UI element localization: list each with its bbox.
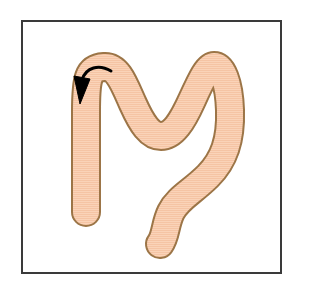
figure-container: Anatomical diagram of a tubular organ wi…: [0, 0, 309, 289]
anatomy-diagram-svg: [0, 0, 309, 289]
